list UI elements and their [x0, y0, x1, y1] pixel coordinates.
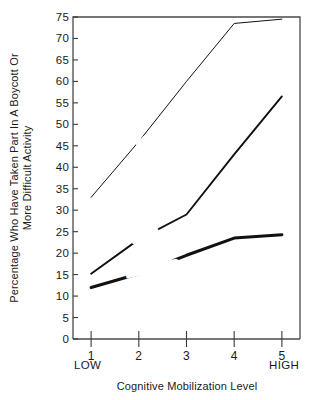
- y-tick-label: 40: [56, 161, 69, 173]
- chart-figure: 051015202530354045505560657075 12345 Pos…: [0, 0, 314, 400]
- series-label-mixed: Mixed: [129, 222, 159, 244]
- x-axis-ticks: 12345: [88, 331, 286, 363]
- series-label-materialists: Materialists: [125, 256, 179, 279]
- series-label-postmaterialists: Postmaterialists: [134, 94, 198, 149]
- y-tick-label: 15: [56, 269, 69, 281]
- series-line-mixed: [91, 96, 282, 273]
- y-tick-label: 25: [56, 226, 69, 238]
- y-tick-label: 20: [56, 247, 69, 259]
- y-tick-label: 5: [62, 312, 69, 324]
- y-tick-label: 65: [56, 54, 69, 66]
- x-axis-title: Cognitive Mobilization Level: [117, 380, 258, 392]
- y-tick-label: 55: [56, 97, 69, 109]
- y-tick-label: 50: [56, 118, 69, 130]
- y-tick-label: 70: [56, 32, 69, 44]
- y-tick-label: 35: [56, 183, 69, 195]
- line-chart: 051015202530354045505560657075 12345 Pos…: [0, 0, 314, 400]
- y-axis-title-line2: More Difficult Activity: [21, 125, 33, 230]
- x-tick-label: 4: [231, 349, 238, 363]
- y-tick-label: 45: [56, 140, 69, 152]
- series-line-materialists: [91, 235, 282, 288]
- y-axis-title-line1: Percentage Who Have Taken Part In A Boyc…: [8, 53, 20, 303]
- x-axis-low-label: LOW: [74, 359, 101, 371]
- y-tick-label: 30: [56, 204, 69, 216]
- series-inline-labels: Postmaterialists Mixed Materialists: [125, 94, 198, 279]
- y-tick-label: 10: [56, 290, 69, 302]
- x-tick-label: 3: [183, 349, 190, 363]
- x-tick-label: 2: [135, 349, 142, 363]
- y-tick-label: 60: [56, 75, 69, 87]
- y-axis-ticks: 051015202530354045505560657075: [56, 11, 78, 345]
- series-layer: [91, 19, 282, 287]
- x-axis-high-label: HIGH: [269, 359, 299, 371]
- y-tick-label: 0: [62, 333, 69, 345]
- y-tick-label: 75: [56, 11, 69, 23]
